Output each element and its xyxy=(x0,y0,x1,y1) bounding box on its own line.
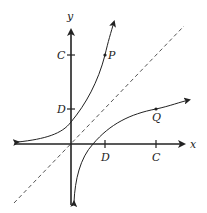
point-q-label: Q xyxy=(152,111,161,124)
diagram-canvas: y x C D D C P Q xyxy=(0,0,207,213)
exponential-curve xyxy=(18,22,114,142)
graph-svg: y x C D D C P Q xyxy=(0,0,207,213)
point-p-label: P xyxy=(107,49,116,62)
y-tick-label-c: C xyxy=(57,49,66,62)
logarithmic-curve xyxy=(74,100,189,202)
y-tick-label-d: D xyxy=(56,103,66,116)
x-tick-label-c: C xyxy=(152,151,161,164)
x-axis-label: x xyxy=(190,138,197,151)
point-p xyxy=(103,53,106,56)
x-tick-label-d: D xyxy=(100,151,110,164)
y-axis-label: y xyxy=(66,10,74,23)
